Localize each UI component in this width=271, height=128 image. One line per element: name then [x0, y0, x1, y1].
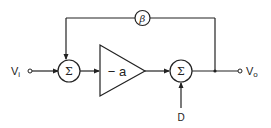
disturbance-input: D	[177, 83, 184, 123]
junction-dot	[213, 69, 216, 72]
input-label: Vi	[11, 65, 20, 79]
disturbance-label: D	[177, 112, 184, 123]
sigma-icon: Σ	[65, 65, 73, 78]
feedback-path	[66, 18, 215, 71]
output-node-open-circle	[238, 69, 242, 73]
summing-junction-input: Σ	[58, 60, 80, 82]
block-diagram: β Vi Σ − a Σ D Vo	[0, 0, 271, 128]
amplifier-gain-label: − a	[108, 64, 127, 79]
input-terminal: Vi	[11, 65, 58, 79]
feedback-block-beta: β	[135, 11, 150, 26]
beta-label: β	[139, 13, 146, 24]
summing-junction-output: Σ	[170, 60, 192, 82]
amplifier-block: − a	[100, 45, 145, 96]
output-label: Vo	[246, 65, 258, 79]
output-terminal: Vo	[192, 65, 258, 79]
sigma-icon: Σ	[177, 65, 185, 78]
input-node-open-circle	[28, 69, 32, 73]
